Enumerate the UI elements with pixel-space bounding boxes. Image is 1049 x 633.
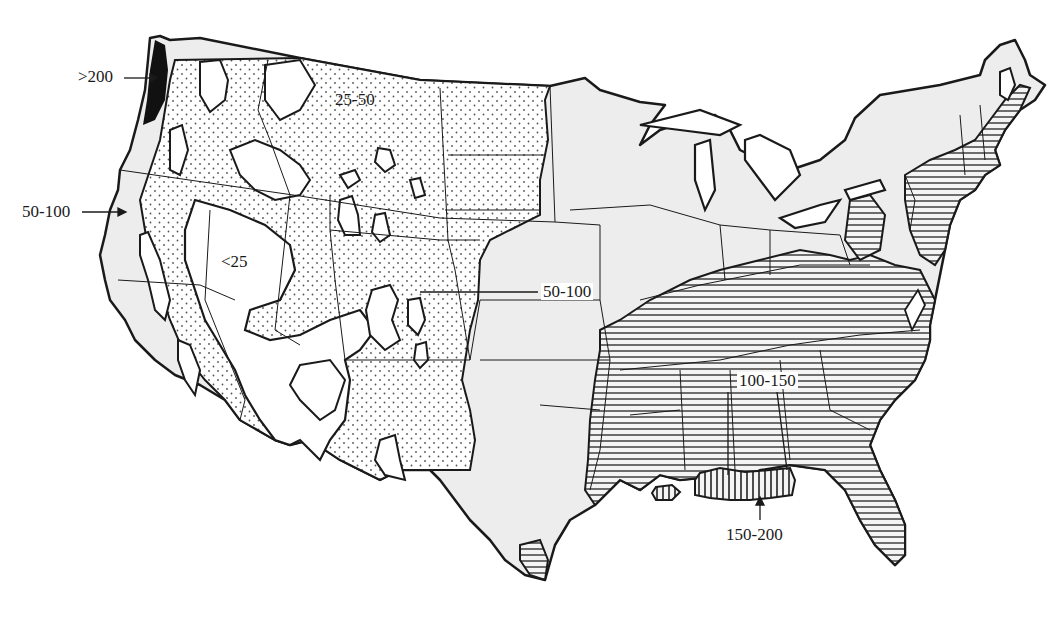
precipitation-map [0, 0, 1049, 633]
label-plains-50-100: 50-100 [541, 283, 593, 300]
label-southeast-100-150: 100-150 [737, 372, 798, 389]
label-lt25: <25 [221, 253, 248, 270]
label-west-50-100: 50-100 [22, 203, 70, 220]
label-north-25-50: 25-50 [335, 91, 375, 108]
label-gulf-150-200: 150-200 [726, 526, 783, 543]
label-gt200: >200 [78, 68, 113, 85]
